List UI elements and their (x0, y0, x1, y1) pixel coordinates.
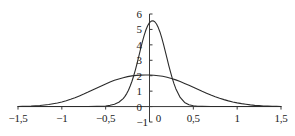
y-tick-label: 2 (137, 70, 142, 81)
x-tick-label: 1,5 (274, 113, 287, 124)
y-tick-label: 1 (137, 86, 142, 97)
axis-group (18, 14, 281, 122)
chart-figure: −1,5−1−0,500,511,5 −10123456 (0, 0, 295, 136)
x-tick-label: 1 (235, 113, 240, 124)
x-tick-label: 0,5 (187, 113, 200, 124)
x-tick-label: −1 (56, 113, 67, 124)
y-tick-label: 5 (137, 24, 142, 35)
y-tick-label: 3 (137, 55, 142, 66)
y-tick-label: −1 (137, 117, 148, 128)
x-tick-label: −0,5 (96, 113, 115, 124)
y-tick-label: 0 (137, 101, 142, 112)
y-tick-label: 4 (137, 39, 142, 50)
x-tick-label: −1,5 (8, 113, 27, 124)
y-tick-label: 6 (137, 9, 142, 20)
x-tick-label: 0 (156, 113, 161, 124)
